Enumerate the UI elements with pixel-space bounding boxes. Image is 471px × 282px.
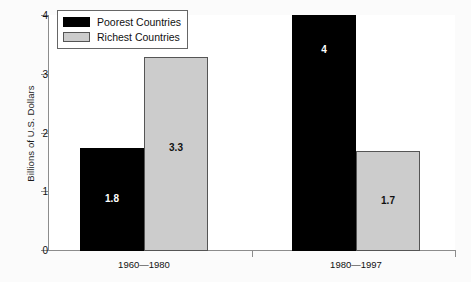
y-tick-0: 0 xyxy=(0,250,48,251)
bar-value-poorest-1980-1997: 4 xyxy=(293,44,355,55)
y-tick-2: 2 xyxy=(0,133,48,134)
bar-poorest-1980-1997: 4 xyxy=(292,15,356,251)
legend-item-poorest: Poorest Countries xyxy=(63,14,181,29)
x-tick-mid xyxy=(252,250,253,257)
y-tick-label-1: 1 xyxy=(12,186,48,197)
x-category-label-1: 1980—1997 xyxy=(330,259,382,270)
legend-label-richest: Richest Countries xyxy=(97,31,180,43)
y-tick-label-2: 2 xyxy=(12,127,48,138)
y-tick-label-4: 4 xyxy=(12,10,48,21)
legend-swatch-richest-icon xyxy=(63,32,90,42)
y-axis-line xyxy=(48,15,49,251)
bar-value-richest-1980-1997: 1.7 xyxy=(357,195,419,206)
legend-label-poorest: Poorest Countries xyxy=(97,16,181,28)
bar-value-poorest-1960-1980: 1.8 xyxy=(81,193,143,204)
bar-poorest-1960-1980: 1.8 xyxy=(80,148,144,251)
chart-legend: Poorest Countries Richest Countries xyxy=(57,10,188,49)
y-tick-3: 3 xyxy=(0,74,48,75)
bar-value-richest-1960-1980: 3.3 xyxy=(145,142,207,153)
bar-richest-1980-1997: 1.7 xyxy=(356,151,420,251)
bar-chart: Billions of U.S. Dollars 0 1 2 3 4 1.8 3… xyxy=(0,0,471,282)
legend-swatch-poorest-icon xyxy=(63,17,90,27)
y-tick-label-0: 0 xyxy=(12,245,48,256)
y-tick-1: 1 xyxy=(0,191,48,192)
x-category-label-0: 1960—1980 xyxy=(118,259,170,270)
bar-richest-1960-1980: 3.3 xyxy=(144,57,208,251)
legend-item-richest: Richest Countries xyxy=(63,29,181,44)
x-tick-end xyxy=(455,250,456,257)
y-tick-4: 4 xyxy=(0,15,48,16)
y-tick-label-3: 3 xyxy=(12,68,48,79)
